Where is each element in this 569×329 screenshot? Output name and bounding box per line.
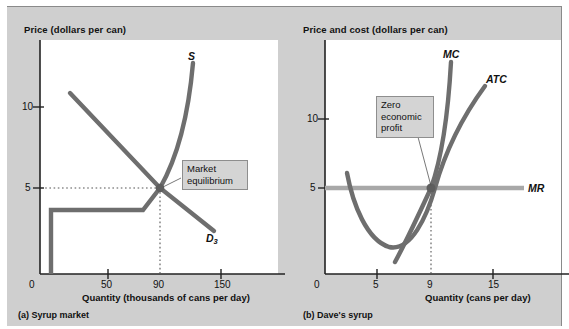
panel-b-xtick-label-9: 9 [427, 279, 433, 290]
figure-root: Price (dollars per can) [0, 0, 569, 329]
panel-a-demand-label-subscript: 3 [214, 237, 218, 246]
panel-a-demand-label: D3 [206, 232, 218, 246]
panel-daves-syrup: Price and cost (dollars per can) [285, 0, 569, 329]
panel-a-equilibrium-point [156, 184, 165, 193]
panel-b-average-total-cost-label: ATC [486, 73, 507, 85]
panel-a-xtick-label-150: 150 [214, 279, 231, 290]
panel-syrup-market: Price (dollars per can) [0, 0, 290, 329]
panel-a-xtick-label-90: 90 [153, 279, 164, 290]
panel-a-demand-label-text: D [206, 232, 214, 244]
panel-b-caption: (b) Dave's syrup [303, 310, 373, 320]
panel-a-x-axis-title: Quantity (thousands of cans per day) [82, 292, 250, 303]
panel-b-origin-label: 0 [314, 279, 320, 290]
panel-a-ytick-label-5: 5 [25, 182, 31, 193]
panel-a-equilibrium-callout: Market equilibrium [182, 160, 248, 190]
panel-b-xtick-label-5: 5 [373, 279, 379, 290]
panel-a-xtick-label-50: 50 [101, 279, 112, 290]
panel-a-supply-curve-lower [51, 188, 160, 274]
panel-b-zero-profit-callout: Zero economic profit [376, 96, 434, 138]
panel-a-supply-label: S [188, 50, 195, 62]
panel-a-ytick-label-10: 10 [22, 101, 33, 112]
panel-b-xtick-label-15: 15 [488, 279, 499, 290]
panel-a-origin-label: 0 [29, 279, 35, 290]
panel-a-caption: (a) Syrup market [18, 310, 89, 320]
panel-b-ytick-label-5: 5 [310, 182, 316, 193]
panel-b-x-axis-title: Quantity (cans per day) [425, 292, 531, 303]
panel-b-ytick-label-10: 10 [307, 113, 318, 124]
panel-b-callout-leader [418, 137, 431, 186]
panel-b-marginal-cost-label: MC [443, 48, 459, 60]
panel-b-marginal-revenue-label: MR [528, 182, 544, 194]
